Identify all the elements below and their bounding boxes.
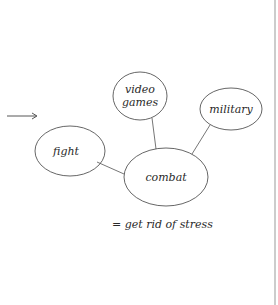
node-label-video: video: [125, 83, 155, 96]
node-military: military: [200, 88, 262, 130]
node-label: military: [209, 103, 253, 116]
edge-military-combat: [192, 125, 210, 154]
mind-map-diagram: video games military fight combat = get …: [0, 0, 278, 305]
arrow-icon: [7, 113, 37, 119]
node-fight: fight: [35, 126, 105, 176]
edge-fight-combat: [97, 162, 124, 174]
node-combat: combat: [124, 148, 208, 206]
node-label: fight: [52, 145, 79, 158]
node-label: combat: [145, 171, 187, 184]
node-label-games: games: [122, 96, 159, 109]
node-video-games: video games: [113, 72, 167, 120]
edge-video-games-combat: [152, 118, 156, 149]
caption: = get rid of stress: [112, 218, 213, 231]
